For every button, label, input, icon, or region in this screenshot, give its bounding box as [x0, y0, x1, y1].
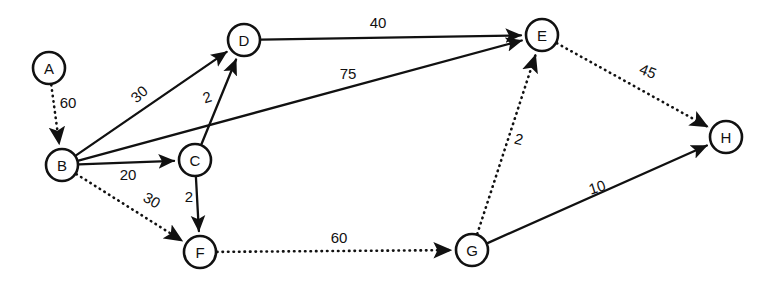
- edge-c-to-f: [196, 177, 199, 231]
- node-label-b: B: [57, 157, 67, 174]
- edge-weight-b-e: 75: [340, 65, 357, 82]
- node-e[interactable]: E: [526, 19, 558, 51]
- edge-g-to-e: [477, 55, 535, 234]
- node-a[interactable]: A: [33, 52, 65, 84]
- node-label-e: E: [537, 27, 547, 44]
- node-label-f: F: [195, 244, 204, 261]
- edge-weight-a-b: 60: [60, 94, 77, 111]
- edge-b-to-f: [76, 174, 182, 241]
- edge-weight-c-d: 2: [200, 88, 213, 107]
- node-c[interactable]: C: [179, 144, 211, 176]
- node-b[interactable]: B: [46, 149, 78, 181]
- node-label-g: G: [466, 242, 478, 259]
- edge-weight-e-h: 45: [637, 60, 659, 82]
- edge-labels-layer: 603020753022404560210: [60, 14, 659, 246]
- graph-diagram: 603020753022404560210 ABCDEFGH: [0, 0, 766, 284]
- edge-weight-b-f: 30: [141, 188, 164, 211]
- edge-weight-d-e: 40: [370, 14, 387, 31]
- node-label-h: H: [721, 129, 732, 146]
- edge-weight-c-f: 2: [185, 188, 193, 205]
- edge-weight-b-c: 20: [120, 166, 137, 183]
- graph-canvas: 603020753022404560210 ABCDEFGH: [0, 0, 766, 284]
- node-label-d: D: [239, 32, 250, 49]
- edge-f-to-g: [217, 250, 451, 252]
- node-label-a: A: [44, 60, 54, 77]
- node-d[interactable]: D: [228, 24, 260, 56]
- edge-weight-g-e: 2: [513, 130, 525, 149]
- node-label-c: C: [190, 152, 201, 169]
- node-f[interactable]: F: [184, 236, 216, 268]
- edge-weight-f-g: 60: [331, 229, 348, 246]
- node-h[interactable]: H: [710, 121, 742, 153]
- edge-b-to-e: [78, 40, 521, 160]
- edges-layer: [51, 35, 707, 252]
- edge-weight-g-h: 10: [586, 176, 607, 197]
- node-g[interactable]: G: [456, 234, 488, 266]
- edge-weight-b-d: 30: [127, 82, 151, 106]
- edge-b-to-c: [79, 161, 174, 165]
- edge-d-to-e: [261, 35, 521, 39]
- edge-a-to-b: [51, 85, 59, 144]
- edge-e-to-h: [557, 43, 708, 127]
